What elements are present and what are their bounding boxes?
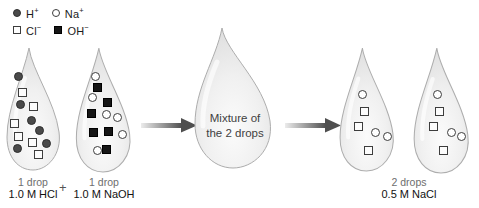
legend-item-cl-minus: Cl− (13, 23, 41, 37)
cl-minus-ion (10, 119, 19, 128)
na-plus-ion (91, 72, 100, 81)
nacl-label-line2: 0.5 M NaCl (369, 188, 449, 201)
cl-minus-icon (13, 26, 21, 34)
arrow-tail (285, 123, 326, 128)
hcl-label-line2: 1.0 M HCl (2, 188, 64, 201)
oh-minus-icon (54, 26, 62, 34)
cl-minus-ion (29, 102, 38, 111)
oh-minus-ion (104, 127, 113, 136)
nacl-drops-label: 2 drops 0.5 M NaCl (369, 176, 449, 201)
na-plus-ion (358, 90, 367, 99)
mixture-drop (191, 26, 278, 171)
oh-minus-ion (102, 145, 111, 154)
legend-label-na-plus: Na+ (65, 6, 84, 20)
naoh-drop-label: 1 drop 1.0 M NaOH (66, 176, 142, 201)
na-plus-ion (447, 128, 456, 137)
cl-minus-ion (28, 138, 37, 147)
legend-label-cl-minus: Cl− (26, 23, 41, 37)
na-plus-ion (93, 146, 102, 155)
cl-minus-ion (360, 107, 369, 116)
hcl-drop-label: 1 drop 1.0 M HCl (2, 176, 64, 201)
h-plus-ion (27, 116, 36, 125)
oh-minus-ion (103, 98, 112, 107)
arrow-tail (141, 123, 182, 128)
cl-minus-ion (14, 132, 23, 141)
arrow-right-2 (285, 116, 341, 134)
oh-minus-ion (89, 128, 98, 137)
legend-item-na-plus: Na+ (52, 6, 84, 20)
na-plus-ion (118, 130, 127, 139)
h-plus-ion (16, 100, 25, 109)
arrow-right-1 (141, 116, 197, 134)
na-plus-ion (113, 113, 122, 122)
na-plus-ion (433, 90, 442, 99)
na-plus-ion (457, 132, 466, 141)
h-plus-ion (35, 126, 44, 135)
cl-minus-ion (435, 107, 444, 116)
na-plus-icon (52, 9, 60, 17)
cl-minus-ion (429, 122, 438, 131)
legend-row-2: Cl− OH− (13, 21, 102, 38)
oh-minus-ion (93, 83, 102, 92)
mixture-label-line2: the 2 drops (195, 126, 275, 141)
cl-minus-ion (354, 122, 363, 131)
nacl-label-line1: 2 drops (369, 176, 449, 188)
na-plus-ion (102, 110, 111, 119)
ion-legend: H+ Na+ Cl− OH− (13, 4, 102, 38)
h-plus-icon (13, 9, 21, 17)
legend-item-oh-minus: OH− (54, 23, 89, 37)
mixture-drop-label: Mixture of the 2 drops (195, 111, 275, 141)
h-plus-ion (13, 144, 22, 153)
legend-item-h-plus: H+ (13, 6, 39, 20)
legend-row-1: H+ Na+ (13, 4, 102, 21)
naoh-label-line1: 1 drop (66, 176, 142, 188)
legend-label-oh-minus: OH− (67, 23, 89, 37)
hcl-label-line1: 1 drop (2, 176, 64, 188)
legend-label-h-plus: H+ (26, 6, 39, 20)
na-plus-ion (88, 93, 97, 102)
cl-minus-ion (364, 146, 373, 155)
na-plus-ion (371, 128, 380, 137)
h-plus-ion (42, 139, 51, 148)
h-plus-ion (14, 72, 23, 81)
na-plus-ion (383, 132, 392, 141)
mixture-label-line1: Mixture of (195, 111, 275, 126)
oh-minus-ion (87, 109, 96, 118)
naoh-label-line2: 1.0 M NaOH (66, 188, 142, 201)
cl-minus-ion (439, 146, 448, 155)
cl-minus-ion (18, 88, 27, 97)
cl-minus-ion (34, 150, 43, 159)
scene: H+ Na+ Cl− OH− (0, 0, 479, 208)
